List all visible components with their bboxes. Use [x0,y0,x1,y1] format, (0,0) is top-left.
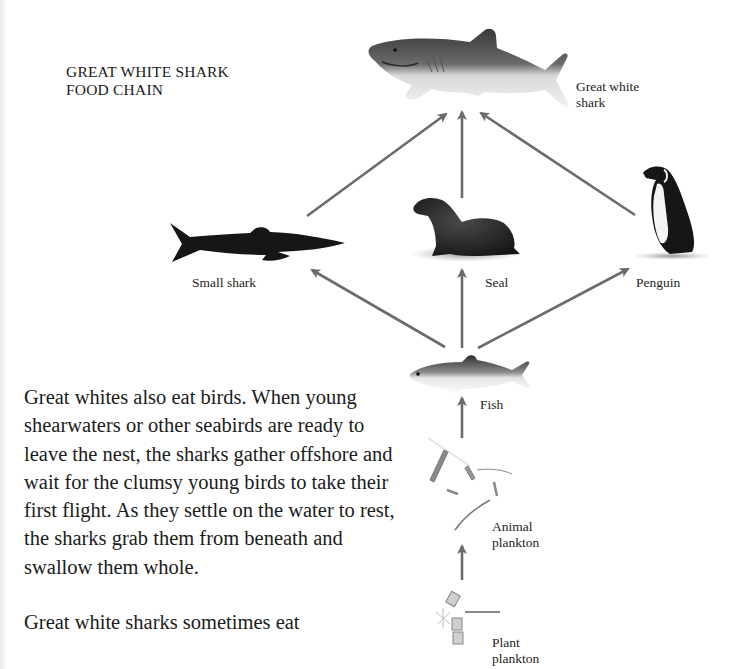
label-seal: Seal [485,275,508,291]
label-animal-plankton-line1: Animal [492,519,539,535]
body-paragraph-2: Great white sharks sometimes eat [24,608,404,636]
body-paragraph-1: Great whites also eat birds. When young … [24,383,404,581]
arrow-penguin-to-great-white [481,113,635,215]
great-white-shark-icon [369,29,569,107]
label-plant-plankton: Plant plankton [492,635,539,667]
label-plant-plankton-line1: Plant [492,635,539,651]
fish-icon [410,355,530,393]
small-shark-icon [170,223,345,262]
label-animal-plankton-line2: plankton [492,535,539,551]
label-great-white-shark-line2: shark [576,95,639,111]
plant-plankton-icon [436,591,500,644]
arrow-fish-to-small-shark [312,270,445,347]
seal-icon [410,198,520,262]
label-fish: Fish [480,397,503,413]
label-great-white-shark: Great white shark [576,79,639,111]
penguin-icon [632,166,712,260]
animal-plankton-icon [428,438,512,530]
label-penguin: Penguin [636,275,680,291]
label-great-white-shark-line1: Great white [576,79,639,95]
body-text: Great whites also eat birds. When young … [24,383,404,636]
label-animal-plankton: Animal plankton [492,519,539,551]
label-small-shark: Small shark [192,275,256,291]
label-plant-plankton-line2: plankton [492,651,539,667]
